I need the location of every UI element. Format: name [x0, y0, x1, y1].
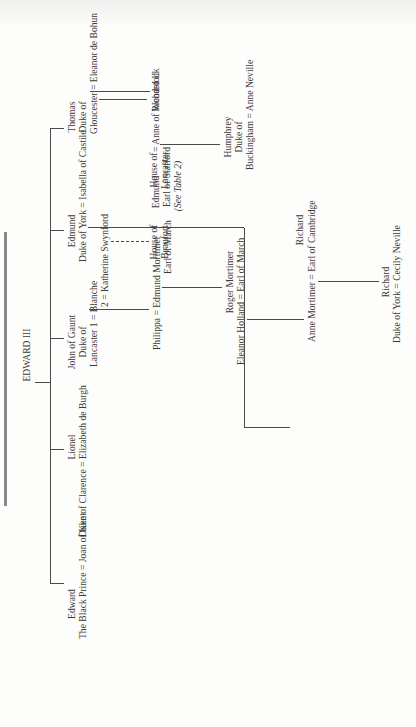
person-lionel: Lionel	[66, 417, 77, 477]
isabella-to-cambridge	[244, 228, 245, 428]
person-edmund-york: Edmund	[66, 201, 77, 261]
drop-thomas	[50, 128, 64, 129]
root-stem	[35, 382, 51, 383]
philippa-to-roger	[162, 287, 222, 288]
edmund-stafford-title: Earl of Stafford	[161, 137, 172, 217]
person-john-of-gaunt: John of Gaunt Duke of	[66, 302, 88, 382]
see-table-2-note: (See Table 2)	[172, 156, 183, 216]
richard-york-marriage: Duke of York = Cecily Neville	[391, 225, 402, 343]
root-edward-iii: EDWARD III	[21, 320, 32, 390]
person-thomas: Thomas Duke of	[66, 77, 88, 157]
john-marriage-1: Lancaster 1 = Blanche	[88, 281, 99, 367]
line-black-prince-richard	[90, 91, 150, 92]
thomas-to-anne-woodstock	[99, 99, 147, 100]
drop-edward	[50, 583, 64, 584]
anne-mortimer-marriage: Anne Mortimer = Earl of Cambridge	[306, 200, 317, 342]
anne-woodstock-marriage: = Anne of Woodstock	[150, 68, 161, 152]
house-beaufort: House of Beaufort	[148, 212, 170, 272]
stafford-to-humphrey	[160, 144, 220, 145]
thomas-marriage: Gloucester = Eleanor de Bohun	[88, 13, 99, 134]
drop-edmund	[50, 230, 64, 231]
drop-lionel	[50, 449, 64, 450]
person-edmund-stafford: Edmund	[150, 167, 161, 217]
family-tree: EDWARD III Edward The Black Prince = Joa…	[0, 0, 416, 727]
drop-john	[50, 338, 64, 339]
person-edward-black-prince: Edward	[66, 559, 77, 649]
person-richard-cambridge: Richard	[294, 200, 305, 260]
lionel-title-marriage: Duke of Clarence = Elizabeth de Burgh	[77, 385, 88, 537]
cambridge-stem	[244, 427, 290, 428]
beaufort-dashed-drop	[111, 241, 149, 242]
person-richard-york: Richard	[380, 252, 391, 312]
humphrey-marriage: Buckingham = Anne Neville	[244, 60, 255, 170]
roger-to-anne	[247, 319, 304, 320]
children-bar	[50, 128, 51, 583]
isabella-drop	[88, 227, 244, 228]
person-humphrey: Humphrey Duke of	[222, 102, 244, 172]
person-roger-mortimer: Roger Mortimer	[224, 242, 235, 322]
anne-to-richard-york	[318, 281, 379, 282]
